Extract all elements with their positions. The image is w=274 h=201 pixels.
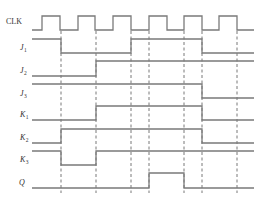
j1-label: J1 [20,43,27,53]
k1-label-subscript: 1 [26,114,29,120]
j3-label-subscript: 3 [24,93,27,99]
k2-waveform [32,129,254,143]
clock-edge-dashed-lines [61,31,237,193]
k2-label: K2 [19,133,29,143]
k1-label: K1 [19,110,29,120]
q-label: Q [19,178,25,187]
j2-label: J2 [20,66,27,76]
clk-label: CLK [6,17,22,26]
j3-label: J3 [20,89,27,99]
j3-waveform [32,84,254,98]
j2-waveform [32,61,254,76]
signal-labels: CLKJ1J2J3K1K2K3Q [6,17,29,187]
j1-label-subscript: 1 [24,47,27,53]
k3-waveform [32,151,254,165]
k3-label-subscript: 3 [26,159,29,165]
k3-label: K3 [19,155,29,165]
q-waveform [32,173,254,188]
j1-waveform [32,39,254,53]
k2-label-subscript: 2 [26,137,29,143]
k1-waveform [32,106,254,120]
clk-waveform [32,16,254,30]
j2-label-subscript: 2 [24,70,27,76]
timing-diagram: CLKJ1J2J3K1K2K3Q [0,0,274,201]
signal-waveforms [32,16,254,188]
